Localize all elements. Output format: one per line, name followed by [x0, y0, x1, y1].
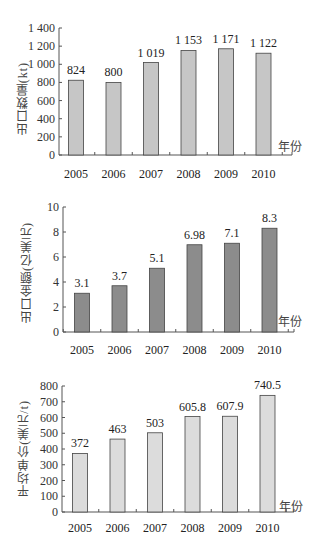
y-tick-label: 1 200 — [28, 39, 55, 53]
chart-plot: 02468103.120053.720065.120076.9820087.12… — [0, 190, 317, 370]
bar-2010 — [262, 228, 277, 332]
x-axis-unit-label: 年份 — [279, 497, 303, 515]
bar-2008 — [185, 417, 200, 512]
bar-2010 — [260, 395, 275, 512]
x-tick-label: 2009 — [220, 343, 244, 357]
x-tick-label: 2008 — [181, 521, 205, 535]
bar-value-label: 5.1 — [150, 251, 165, 265]
x-tick-label: 2006 — [106, 521, 130, 535]
y-tick-label: 8 — [53, 225, 59, 239]
bar-2009 — [223, 416, 238, 512]
x-tick-label: 2005 — [64, 167, 88, 181]
y-tick-label: 600 — [40, 411, 58, 425]
y-tick-label: 800 — [37, 75, 55, 89]
x-axis-unit-label: 年份 — [278, 312, 302, 330]
chart-plot: 02004006008001 0001 2001 400824200580020… — [0, 0, 317, 190]
bar-value-label: 503 — [146, 416, 164, 430]
y-tick-label: 4 — [53, 275, 59, 289]
bar-2005 — [73, 453, 88, 512]
y-tick-label: 0 — [52, 505, 58, 519]
x-tick-label: 2010 — [256, 521, 280, 535]
x-tick-label: 2007 — [143, 521, 167, 535]
x-tick-label: 2007 — [139, 167, 163, 181]
average-unit-price-chart: 0100200300400500600700800372200546320065… — [0, 370, 317, 550]
x-tick-label: 2010 — [252, 167, 276, 181]
chart-plot: 0100200300400500600700800372200546320065… — [0, 370, 317, 550]
y-tick-label: 6 — [53, 250, 59, 264]
bar-value-label: 372 — [71, 436, 89, 450]
y-axis-label: 出口数量(kt) — [14, 62, 31, 135]
bar-value-label: 740.5 — [254, 378, 281, 392]
bar-2010 — [256, 53, 271, 155]
y-tick-label: 800 — [40, 379, 58, 393]
y-tick-label: 1 400 — [28, 21, 55, 35]
x-tick-label: 2009 — [214, 167, 238, 181]
bar-2006 — [106, 82, 121, 155]
export-value-chart: 02468103.120053.720065.120076.9820087.12… — [0, 190, 317, 370]
bar-value-label: 800 — [105, 65, 123, 79]
bar-value-label: 8.3 — [262, 211, 277, 225]
y-tick-label: 400 — [40, 442, 58, 456]
y-tick-label: 2 — [53, 300, 59, 314]
x-tick-label: 2010 — [258, 343, 282, 357]
y-tick-label: 500 — [40, 426, 58, 440]
x-tick-label: 2008 — [183, 343, 207, 357]
bar-2009 — [219, 49, 234, 155]
bar-2005 — [69, 80, 84, 155]
bar-value-label: 6.98 — [184, 228, 205, 242]
bar-2007 — [144, 63, 159, 155]
bar-2009 — [225, 243, 240, 332]
x-tick-label: 2005 — [68, 521, 92, 535]
y-tick-label: 200 — [40, 474, 58, 488]
y-tick-label: 1 000 — [28, 57, 55, 71]
bar-value-label: 824 — [67, 63, 85, 77]
bar-2007 — [148, 433, 163, 512]
bar-value-label: 1 122 — [250, 36, 277, 50]
bar-value-label: 463 — [109, 422, 127, 436]
bar-value-label: 607.9 — [217, 399, 244, 413]
x-tick-label: 2008 — [177, 167, 201, 181]
bar-2005 — [75, 293, 90, 332]
x-axis-unit-label: 年份 — [278, 137, 302, 155]
x-tick-label: 2009 — [218, 521, 242, 535]
bar-2006 — [110, 439, 125, 512]
y-tick-label: 10 — [47, 200, 59, 214]
x-tick-label: 2006 — [102, 167, 126, 181]
bar-value-label: 1 153 — [175, 33, 202, 47]
bar-value-label: 1 171 — [213, 32, 240, 46]
bar-value-label: 3.1 — [75, 276, 90, 290]
bar-value-label: 3.7 — [112, 269, 127, 283]
bar-2006 — [112, 286, 127, 332]
y-tick-label: 200 — [37, 130, 55, 144]
y-axis-label: 出口金额(亿美元) — [18, 222, 35, 323]
x-tick-label: 2007 — [145, 343, 169, 357]
y-axis-label: 平均单价(美元/t) — [15, 400, 32, 497]
y-tick-label: 300 — [40, 458, 58, 472]
y-tick-label: 600 — [37, 94, 55, 108]
y-tick-label: 100 — [40, 489, 58, 503]
x-tick-label: 2005 — [70, 343, 94, 357]
bar-value-label: 605.8 — [179, 400, 206, 414]
x-tick-label: 2006 — [108, 343, 132, 357]
bar-2008 — [181, 50, 196, 155]
y-tick-label: 700 — [40, 395, 58, 409]
bar-2008 — [187, 245, 202, 332]
y-tick-label: 400 — [37, 112, 55, 126]
y-tick-label: 0 — [49, 148, 55, 162]
bar-value-label: 1 019 — [138, 46, 165, 60]
bar-2007 — [150, 268, 165, 332]
y-tick-label: 0 — [53, 325, 59, 339]
bar-value-label: 7.1 — [225, 226, 240, 240]
export-volume-chart: 02004006008001 0001 2001 400824200580020… — [0, 0, 317, 190]
